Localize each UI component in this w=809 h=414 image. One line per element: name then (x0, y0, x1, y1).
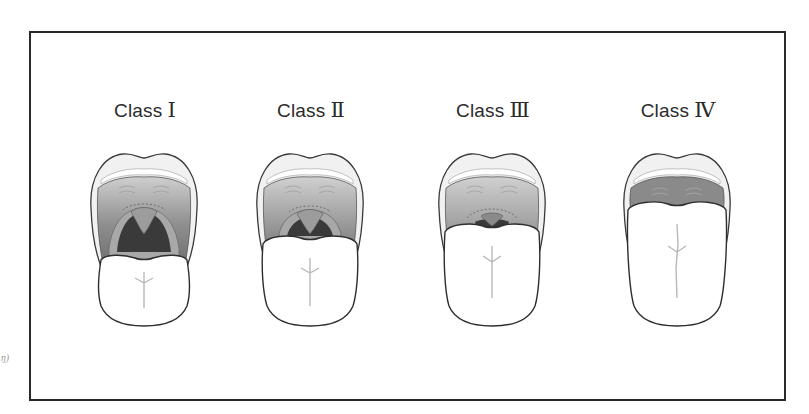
class-4-numeral: Ⅳ (694, 98, 715, 122)
class-4-panel: ClassⅣ (603, 0, 753, 414)
side-margin-mark: ŋ) (1, 352, 9, 363)
class-4-mouth-illustration (616, 148, 738, 328)
class-1-label: ClassⅠ (70, 98, 220, 123)
class-1-panel: ClassⅠ (70, 0, 220, 414)
class-3-numeral: Ⅲ (510, 98, 530, 122)
class-1-prefix: Class (114, 100, 163, 121)
class-3-prefix: Class (456, 100, 505, 121)
class-3-mouth-illustration (431, 148, 553, 328)
class-3-panel: ClassⅢ (418, 0, 568, 414)
class-4-prefix: Class (641, 100, 690, 121)
class-3-label: ClassⅢ (418, 98, 568, 123)
class-2-panel: ClassⅡ (236, 0, 386, 414)
class-2-prefix: Class (277, 100, 326, 121)
class-2-numeral: Ⅱ (331, 98, 345, 122)
class-4-label: ClassⅣ (603, 98, 753, 123)
class-2-mouth-illustration (249, 148, 371, 328)
class-1-mouth-illustration (83, 148, 205, 328)
class-2-label: ClassⅡ (236, 98, 386, 123)
class-1-numeral: Ⅰ (168, 98, 177, 122)
